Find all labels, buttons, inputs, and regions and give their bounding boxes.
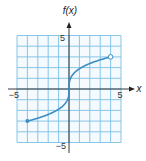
x-axis-arrow-icon bbox=[129, 87, 135, 92]
closed-endpoint-dot bbox=[25, 119, 29, 123]
x-tick-max-label: 5 bbox=[117, 90, 122, 100]
y-tick-min-label: −5 bbox=[56, 141, 66, 151]
function-graph: f(x) x −5 5 5 −5 bbox=[0, 0, 146, 161]
open-endpoint-dot bbox=[108, 55, 113, 60]
y-tick-max-label: 5 bbox=[60, 33, 65, 43]
y-axis-arrow-icon bbox=[67, 22, 72, 28]
x-axis-label: x bbox=[136, 83, 143, 94]
y-axis-label: f(x) bbox=[63, 5, 77, 16]
x-tick-min-label: −5 bbox=[9, 90, 19, 100]
